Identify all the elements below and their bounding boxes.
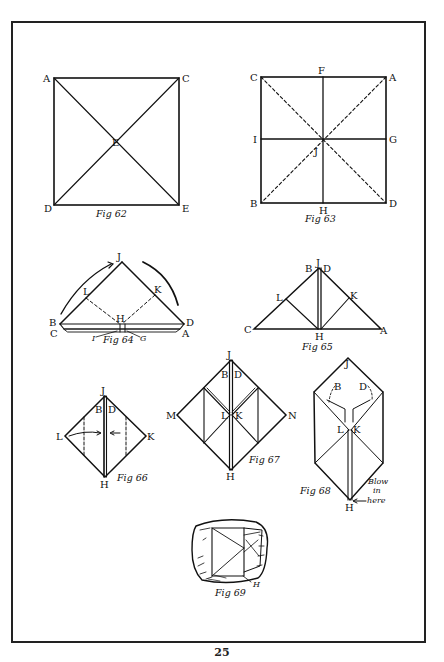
label-A: A (388, 72, 397, 83)
label-E-center: E (112, 137, 119, 148)
label-G: G (140, 334, 147, 343)
caption-fig-69: Fig 69 (214, 587, 246, 598)
caption-fig-63: Fig 63 (304, 213, 336, 224)
label-B: B (334, 381, 341, 392)
label-B: B (250, 198, 257, 209)
label-D: D (44, 203, 52, 214)
fig-67: J B D M N L K H Fig 67 (166, 349, 297, 482)
label-C: C (50, 328, 58, 339)
label-D: D (359, 381, 367, 392)
label-H: H (100, 479, 109, 490)
caption-fig-66: Fig 66 (116, 472, 148, 483)
label-N: N (288, 410, 297, 421)
caption-fig-68: Fig 68 (299, 485, 331, 496)
label-H: H (116, 313, 125, 324)
label-L: L (56, 431, 63, 442)
label-H: H (226, 471, 235, 482)
label-H: H (252, 580, 261, 589)
caption-fig-67: Fig 67 (248, 454, 281, 465)
label-B: B (95, 404, 102, 415)
label-C: C (182, 73, 190, 84)
label-J: J (315, 257, 320, 268)
label-D: D (389, 198, 397, 209)
fig-64: J L K H B C D A I G Fig 64 (49, 251, 194, 345)
label-A: A (181, 328, 190, 339)
caption-fig-64: Fig 64 (102, 334, 134, 345)
label-J: J (313, 146, 318, 157)
label-J: J (226, 349, 231, 360)
label-D: D (108, 404, 116, 415)
note-blow: Blow (367, 477, 388, 486)
fig-65: B J D L K C H A Fig 65 (244, 257, 388, 352)
label-J: J (344, 358, 349, 369)
label-L: L (276, 292, 283, 303)
note-in: in (373, 486, 381, 495)
note-here: here (367, 496, 386, 505)
label-B: B (49, 317, 56, 328)
label-I: I (253, 134, 257, 145)
label-C: C (250, 72, 258, 83)
caption-fig-65: Fig 65 (301, 341, 333, 352)
label-B: B (221, 369, 228, 380)
label-D: D (234, 369, 242, 380)
label-K: K (154, 284, 162, 295)
label-J: J (100, 385, 105, 396)
label-C: C (244, 324, 252, 335)
label-I: I (91, 334, 96, 343)
label-L: L (83, 286, 90, 297)
label-K: K (147, 431, 155, 442)
fig-66: J B D L K H Fig 66 (56, 385, 155, 490)
label-K: K (235, 410, 243, 421)
label-F: F (318, 65, 325, 76)
label-A: A (379, 325, 388, 336)
label-K: K (350, 290, 358, 301)
label-L: L (337, 424, 344, 435)
page-number: 25 (0, 646, 444, 659)
label-B: B (305, 263, 312, 274)
fig-62: A C E D E Fig 62 (42, 73, 190, 219)
fig-63: C F A I G J B H D Fig 63 (250, 65, 397, 224)
label-K: K (353, 424, 361, 435)
label-L: L (221, 410, 228, 421)
caption-fig-62: Fig 62 (95, 208, 127, 219)
label-J: J (116, 251, 121, 262)
label-H: H (345, 502, 354, 513)
label-E-corner: E (182, 203, 189, 214)
fig-69: H Fig 69 (192, 520, 268, 598)
folding-diagrams: A C E D E Fig 62 C F A I G J B H D Fig 6… (0, 0, 444, 662)
fig-68: J B D L K H Fig 68 Blow in here (299, 358, 388, 513)
label-G: G (389, 134, 397, 145)
label-M: M (166, 410, 176, 421)
label-D: D (323, 263, 331, 274)
label-A: A (42, 73, 51, 84)
label-D: D (186, 317, 194, 328)
